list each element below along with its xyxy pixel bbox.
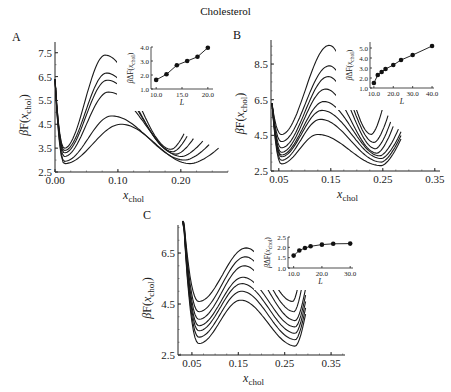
inset-data-point xyxy=(291,253,296,258)
x-tick-label: 0.35 xyxy=(321,357,341,369)
x-tick-label: 0.05 xyxy=(182,357,202,369)
y-axis-label: βF(xchol) xyxy=(17,94,33,136)
y-tick-label: 4.5 xyxy=(38,118,52,130)
inset-data-point xyxy=(320,242,325,247)
inset-x-tick: 40.0 xyxy=(426,90,439,98)
y-tick-label: 6.5 xyxy=(161,247,175,259)
x-axis-label: xchol xyxy=(242,371,264,387)
x-tick-label: 0.15 xyxy=(321,173,341,185)
inset-data-point xyxy=(164,72,169,77)
inset-x-tick: 30.0 xyxy=(344,270,357,278)
panel-c-inset: 1.01.52.02.510.020.030.0LβΔF(xchol) xyxy=(254,233,357,290)
inset-data-point xyxy=(331,242,336,247)
inset-data-point xyxy=(303,246,308,251)
inset-x-tick: 20.0 xyxy=(387,90,400,98)
x-tick-label: 0.15 xyxy=(229,357,249,369)
inset-y-tick: 5.0 xyxy=(359,45,368,53)
inset-data-point xyxy=(185,59,190,64)
panel-b-inset: 1.02.03.04.05.010.020.030.040.0LβΔF(xcho… xyxy=(336,38,439,110)
inset-data-point xyxy=(391,63,396,68)
panel-b-plot: 2.54.56.58.50.050.150.250.35xcholβF(xcho… xyxy=(233,38,445,203)
y-tick-label: 4.5 xyxy=(254,129,268,141)
inset-data-point xyxy=(372,81,377,86)
inset-x-tick: 30.0 xyxy=(407,90,420,98)
inset-data-point xyxy=(175,63,180,68)
inset-data-point xyxy=(308,244,313,249)
inset-x-tick: 10.0 xyxy=(368,90,381,98)
inset-x-label: L xyxy=(179,98,185,107)
y-tick-label: 3.5 xyxy=(38,142,52,154)
inset-y-tick: 2.0 xyxy=(140,72,149,80)
panel-a-inset: 1.02.03.04.010.015.020.0LβΔF(xchol) xyxy=(117,43,217,111)
x-axis-label: xchol xyxy=(122,188,144,204)
y-tick-label: 4.5 xyxy=(161,298,175,310)
inset-data-point xyxy=(410,53,415,58)
y-tick-label: 2.5 xyxy=(161,349,175,361)
inset-data-point xyxy=(154,78,159,83)
inset-y-tick: 4.0 xyxy=(140,44,149,52)
x-tick-label: 0.25 xyxy=(275,357,295,369)
inset-y-tick: 4.0 xyxy=(359,55,368,63)
y-tick-label: 5.5 xyxy=(38,94,52,106)
inset-data-point xyxy=(348,241,353,246)
y-tick-label: 7.5 xyxy=(38,47,52,59)
x-tick-label: 0.35 xyxy=(425,173,445,185)
y-tick-label: 6.5 xyxy=(38,71,52,83)
x-axis-label: xchol xyxy=(336,187,358,203)
inset-y-tick: 3.0 xyxy=(359,65,368,73)
inset-data-point xyxy=(379,70,384,75)
x-tick-label: 0.10 xyxy=(108,174,128,186)
inset-data-point xyxy=(297,248,302,253)
inset-y-tick: 1.0 xyxy=(277,265,286,273)
inset-data-point xyxy=(375,73,380,78)
inset-data-point xyxy=(430,44,435,49)
y-tick-label: 8.5 xyxy=(254,58,268,70)
x-tick-label: 0.20 xyxy=(171,174,191,186)
inset-x-label: L xyxy=(399,97,405,106)
inset-y-tick: 2.0 xyxy=(277,244,286,252)
inset-data-point xyxy=(206,45,211,50)
y-tick-label: 6.5 xyxy=(254,94,268,106)
inset-x-tick: 20.0 xyxy=(202,91,215,99)
inset-y-tick: 3.0 xyxy=(140,58,149,66)
panel-a-plot: 2.53.54.55.56.57.50.000.100.20xcholβF(xc… xyxy=(17,42,228,204)
x-tick-label: 0.00 xyxy=(45,174,65,186)
inset-x-tick: 10.0 xyxy=(288,270,301,278)
inset-x-tick: 10.0 xyxy=(150,91,163,99)
y-axis-label: βF(xchol) xyxy=(140,277,156,319)
inset-y-tick: 2.0 xyxy=(359,75,368,83)
inset-x-label: L xyxy=(317,277,323,286)
x-tick-label: 0.05 xyxy=(269,173,289,185)
inset-data-point xyxy=(383,67,388,72)
x-tick-label: 0.25 xyxy=(373,173,393,185)
inset-data-point xyxy=(195,55,200,60)
inset-y-tick: 1.0 xyxy=(140,86,149,94)
panel-c-plot: 2.54.56.50.050.150.250.35xcholβF(xchol)1… xyxy=(140,221,357,387)
inset-y-tick: 2.5 xyxy=(277,234,286,242)
chart-canvas: 2.53.54.55.56.57.50.000.100.20xcholβF(xc… xyxy=(0,0,451,392)
inset-y-tick: 1.5 xyxy=(277,254,286,262)
y-tick-label: 2.5 xyxy=(254,165,268,177)
y-axis-label: βF(xchol) xyxy=(233,93,249,135)
inset-data-point xyxy=(399,58,404,63)
